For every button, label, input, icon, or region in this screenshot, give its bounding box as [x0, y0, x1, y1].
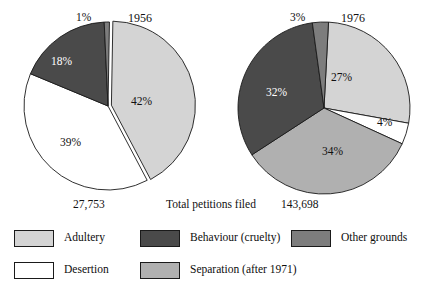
pie-chart-1976	[234, 18, 414, 198]
pie-1956-slice-other-pct: 1%	[76, 12, 91, 24]
legend-swatch-adultery	[14, 230, 54, 247]
pie-1976-slice-desertion-pct: 4%	[377, 117, 392, 129]
total-1976: 143,698	[281, 199, 318, 211]
legend-swatch-desertion	[14, 262, 54, 279]
legend-swatch-separation	[140, 262, 180, 279]
legend-label-desertion: Desertion	[64, 263, 109, 275]
pie-1956-slice-desertion-pct: 39%	[60, 137, 81, 149]
pie-1956-year-label: 1956	[128, 12, 152, 24]
pie-1976-svg	[234, 18, 414, 198]
total-caption: Total petitions filed	[166, 199, 256, 211]
divorce-petitions-pie-figure: 1956 1% 42% 18% 39% 1976 3% 27% 4% 34% 3…	[0, 0, 428, 297]
pie-1976-slice-behaviour-pct: 32%	[266, 87, 287, 99]
totals-row: 27,753 Total petitions filed 143,698	[0, 199, 428, 215]
pie-1956-svg	[22, 18, 202, 198]
legend-label-separation: Separation (after 1971)	[190, 263, 297, 275]
legend-label-adultery: Adultery	[64, 231, 105, 243]
pie-1976-slice-separation-pct: 34%	[322, 146, 343, 158]
legend-swatch-other-grounds	[291, 230, 331, 247]
pie-1956-slice-behaviour-pct: 18%	[51, 56, 72, 68]
pie-chart-1956	[22, 18, 202, 198]
legend: Adultery Behaviour (cruelty) Other groun…	[0, 230, 428, 290]
legend-label-behaviour: Behaviour (cruelty)	[190, 231, 280, 243]
legend-swatch-behaviour	[140, 230, 180, 247]
pie-1976-year-label: 1976	[341, 12, 365, 24]
pie-1956-slice-adultery-pct: 42%	[131, 96, 152, 108]
pie-1976-slice-adultery-pct: 27%	[331, 72, 352, 84]
pie-1976-slice-other-pct: 3%	[290, 12, 305, 24]
total-1956: 27,753	[73, 199, 105, 211]
legend-label-other-grounds: Other grounds	[341, 231, 407, 243]
